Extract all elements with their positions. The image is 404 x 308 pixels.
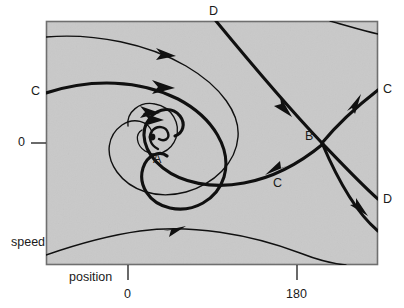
figure-container: speed position 0 0 180 A B C C C D D bbox=[0, 0, 404, 308]
x-tick-label-0: 0 bbox=[124, 288, 131, 301]
annotation-label-C-left: C bbox=[31, 85, 40, 98]
annotation-label-B: B bbox=[305, 130, 313, 143]
plot-area bbox=[46, 21, 378, 265]
annotation-label-D-right: D bbox=[383, 193, 392, 206]
x-tick-label-180: 180 bbox=[286, 288, 307, 301]
x-axis-label: position bbox=[69, 271, 112, 284]
annotation-label-C-right: C bbox=[383, 83, 392, 96]
phase-portrait-svg bbox=[0, 0, 404, 308]
annotation-label-A: A bbox=[153, 153, 161, 166]
y-tick-label-0: 0 bbox=[18, 136, 25, 149]
plot-background-texture bbox=[46, 21, 378, 265]
annotation-label-C-inner: C bbox=[273, 177, 282, 190]
y-axis-label: speed bbox=[11, 236, 45, 249]
annotation-label-D-top: D bbox=[209, 5, 218, 18]
equilibrium-dot-A bbox=[149, 134, 156, 141]
